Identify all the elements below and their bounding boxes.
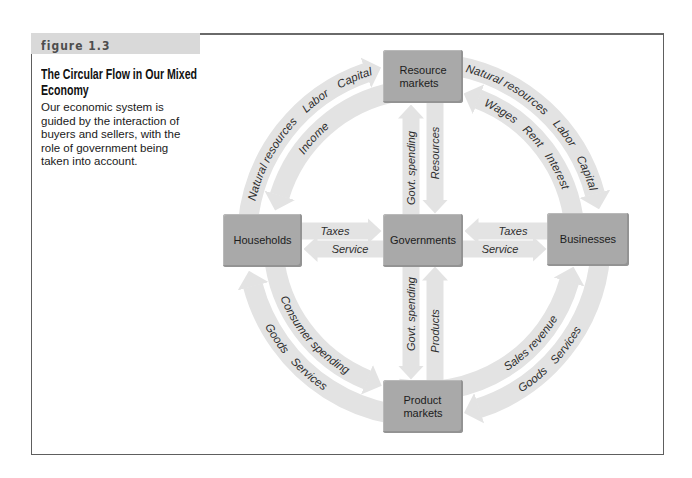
node-label: Households	[233, 234, 291, 247]
node-businesses: Businesses	[547, 213, 629, 266]
label-governments-to-resource-markets: Govt. spending	[405, 130, 417, 205]
node-label: Governments	[390, 234, 456, 247]
label-governments-to-product-markets: Govt. spending	[405, 276, 417, 351]
node-label: Businesses	[560, 233, 616, 246]
label-governments-to-businesses: Service	[482, 243, 519, 255]
label-governments-to-households: Service	[332, 243, 369, 255]
node-households: Households	[223, 214, 302, 267]
label-businesses-to-governments: Taxes	[499, 225, 528, 237]
label-resource-markets-to-governments: Resources	[429, 126, 441, 179]
node-label: Resource markets	[399, 64, 446, 90]
label-product-markets-to-governments: Products	[429, 309, 441, 353]
node-governments: Governments	[383, 214, 463, 267]
node-product-markets: Product markets	[383, 380, 463, 433]
node-label: Product markets	[403, 394, 442, 420]
label-households-to-governments: Taxes	[321, 225, 350, 237]
node-resource-markets: Resource markets	[383, 50, 463, 103]
